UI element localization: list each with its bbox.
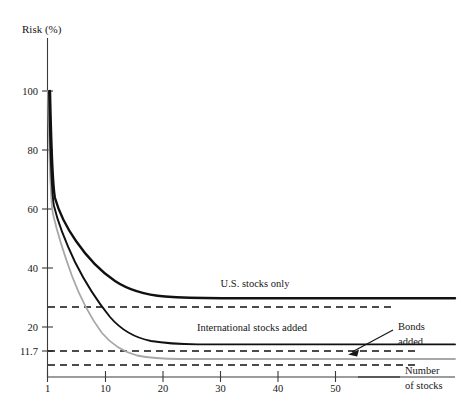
bonds-added-leader-line [352,330,393,352]
x-tick-label-20: 20 [158,383,169,394]
y-tick-labels: 100 80 60 40 20 11.7 [20,86,38,357]
y-tick-label-20: 20 [28,322,39,333]
y-tick-label-60: 60 [28,204,39,215]
chart-page: Risk (%) 100 80 60 40 20 11.7 1 10 20 30… [0,0,461,413]
x-tick-label-1: 1 [45,383,50,394]
series-label-us-stocks-only: U.S. stocks only [221,278,291,289]
curve-us-stocks-only [50,91,455,298]
risk-diversification-chart: Risk (%) 100 80 60 40 20 11.7 1 10 20 30… [0,0,461,413]
curve-bonds-added [48,91,455,359]
series-label-international-stocks-added: International stocks added [197,322,308,333]
y-axis-title: Risk (%) [22,23,62,36]
x-axis-title-line2: of stocks [405,380,443,391]
series-curves-group [48,91,455,359]
x-tick-labels: 1 10 20 30 40 50 [45,383,341,394]
x-tick-label-40: 40 [273,383,284,394]
y-tick-label-100: 100 [22,86,38,97]
x-tick-label-50: 50 [330,383,341,394]
x-axis-title-line1: Number [405,365,440,376]
y-tick-label-40: 40 [28,263,39,274]
y-tick-label-80: 80 [28,145,39,156]
bonds-added-leader [348,330,393,357]
bonds-added-callout: Bonds added [398,321,425,347]
x-tick-label-30: 30 [215,383,226,394]
y-tick-label-11-7: 11.7 [20,346,38,357]
x-axis-title: Number of stocks [405,365,443,391]
bonds-added-callout-line1: Bonds [398,321,425,332]
bonds-added-callout-line2: added [398,336,424,347]
x-tick-label-10: 10 [100,383,111,394]
